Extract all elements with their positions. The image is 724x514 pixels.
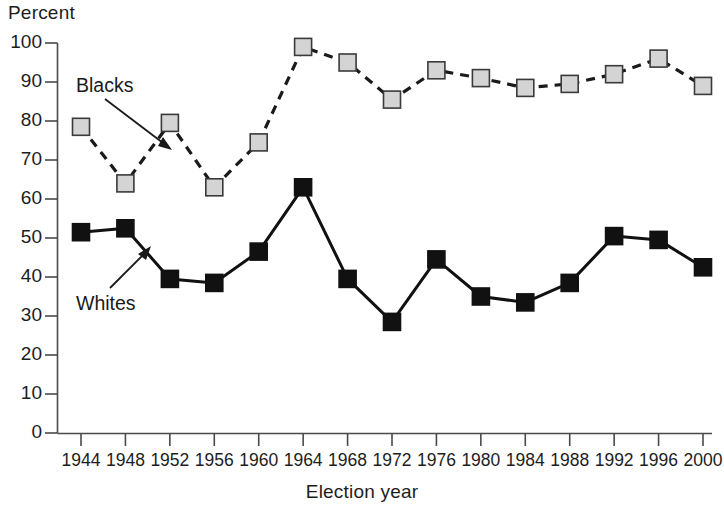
y-axis-ticks xyxy=(45,43,58,433)
y-axis-tick-label: 50 xyxy=(0,226,42,248)
data-point-marker xyxy=(161,270,178,287)
y-axis-tick-label: 70 xyxy=(0,148,42,170)
data-point-marker xyxy=(250,243,267,260)
data-point-marker xyxy=(695,77,712,94)
blacks-annotation-arrow-head xyxy=(158,137,172,150)
data-point-marker xyxy=(472,288,489,305)
series-blacks xyxy=(73,38,712,195)
y-axis-tick-label: 20 xyxy=(0,343,42,365)
data-point-marker xyxy=(206,274,223,291)
data-series-group xyxy=(73,38,712,330)
data-point-marker xyxy=(384,313,401,330)
data-point-marker xyxy=(606,66,623,83)
data-point-marker xyxy=(250,134,267,151)
y-axis-tick-label: 40 xyxy=(0,265,42,287)
series-label-whites: Whites xyxy=(76,292,136,315)
x-axis-tick-label: 2000 xyxy=(675,450,724,471)
data-point-marker xyxy=(117,220,134,237)
series-whites xyxy=(73,179,712,331)
x-axis-ticks xyxy=(81,434,703,447)
data-point-marker xyxy=(428,62,445,79)
data-point-marker xyxy=(606,228,623,245)
data-point-marker xyxy=(517,294,534,311)
data-point-marker xyxy=(73,118,90,135)
data-point-marker xyxy=(650,231,667,248)
y-axis-tick-label: 0 xyxy=(0,421,42,443)
data-point-marker xyxy=(517,79,534,96)
data-point-marker xyxy=(428,251,445,268)
y-axis-tick-label: 90 xyxy=(0,70,42,92)
data-point-marker xyxy=(339,54,356,71)
data-point-marker xyxy=(339,270,356,287)
y-axis-tick-label: 30 xyxy=(0,304,42,326)
series-line xyxy=(81,187,703,322)
data-point-marker xyxy=(161,114,178,131)
blacks-annotation-arrow-line xyxy=(105,99,167,146)
y-axis-tick-label: 100 xyxy=(0,31,42,53)
x-axis-title: Election year xyxy=(0,481,724,503)
data-point-marker xyxy=(561,75,578,92)
data-point-marker xyxy=(117,175,134,192)
y-axis-tick-label: 60 xyxy=(0,187,42,209)
data-point-marker xyxy=(295,38,312,55)
data-point-marker xyxy=(206,179,223,196)
data-point-marker xyxy=(472,70,489,87)
data-point-marker xyxy=(73,224,90,241)
data-point-marker xyxy=(384,91,401,108)
y-axis-tick-label: 10 xyxy=(0,382,42,404)
data-point-marker xyxy=(295,179,312,196)
data-point-marker xyxy=(695,259,712,276)
chart-figure: Percent Blacks Whites 010203040506070809… xyxy=(0,0,724,514)
series-label-blacks: Blacks xyxy=(76,74,133,97)
y-axis-tick-label: 80 xyxy=(0,109,42,131)
data-point-marker xyxy=(561,274,578,291)
data-point-marker xyxy=(650,50,667,67)
